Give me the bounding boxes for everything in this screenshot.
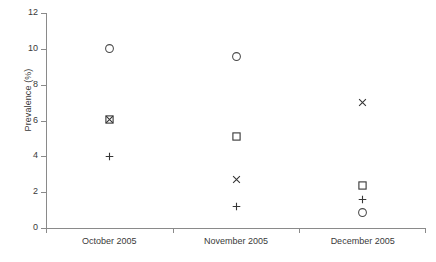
x-tick-label: December 2005 bbox=[298, 237, 428, 246]
data-point-cross bbox=[231, 174, 242, 185]
y-tick-mark bbox=[41, 121, 46, 122]
data-point-circle bbox=[104, 43, 115, 54]
y-tick-mark bbox=[41, 192, 46, 193]
x-tick-label: November 2005 bbox=[171, 237, 301, 246]
data-point-circle bbox=[231, 51, 242, 62]
data-point-plus bbox=[104, 151, 115, 162]
y-tick-label: 0 bbox=[0, 223, 38, 232]
y-axis-line bbox=[46, 13, 47, 229]
data-point-cross bbox=[357, 97, 368, 108]
data-point-square bbox=[104, 114, 115, 125]
data-point-square bbox=[357, 180, 368, 191]
y-tick-label: 4 bbox=[0, 151, 38, 160]
data-point-circle bbox=[357, 207, 368, 218]
data-point-cross bbox=[104, 114, 115, 125]
data-point-square bbox=[231, 131, 242, 142]
y-tick-mark bbox=[41, 156, 46, 157]
data-point-plus bbox=[231, 201, 242, 212]
y-tick-label: 2 bbox=[0, 187, 38, 196]
y-tick-label: 10 bbox=[0, 44, 38, 53]
x-tick-mark bbox=[46, 228, 47, 233]
x-tick-label: October 2005 bbox=[44, 237, 174, 246]
y-tick-mark bbox=[41, 85, 46, 86]
y-tick-mark bbox=[41, 49, 46, 50]
x-tick-mark bbox=[425, 228, 426, 233]
data-point-plus bbox=[357, 194, 368, 205]
x-tick-mark bbox=[173, 228, 174, 233]
scatter-chart: Prevalence (%) 024681012 October 2005Nov… bbox=[0, 0, 436, 262]
x-tick-mark bbox=[299, 228, 300, 233]
y-tick-label: 12 bbox=[0, 8, 38, 17]
y-tick-mark bbox=[41, 13, 46, 14]
x-axis-line bbox=[46, 228, 426, 229]
y-tick-label: 6 bbox=[0, 116, 38, 125]
y-tick-label: 8 bbox=[0, 80, 38, 89]
